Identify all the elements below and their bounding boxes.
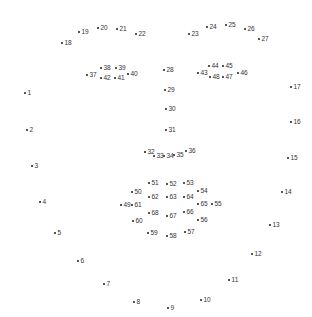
landmark-dot-icon	[251, 253, 253, 255]
landmark-label: 39	[119, 65, 126, 72]
landmark-label: 6	[81, 258, 85, 265]
landmark-dot-icon	[24, 92, 26, 94]
landmark-point: 26	[244, 26, 255, 33]
landmark-label: 12	[255, 251, 262, 258]
landmark-point: 11	[228, 277, 238, 284]
landmark-point: 9	[167, 305, 174, 312]
landmark-dot-icon	[97, 27, 99, 29]
landmark-dot-icon	[197, 203, 199, 205]
landmark-dot-icon	[132, 220, 134, 222]
landmark-dot-icon	[165, 129, 167, 131]
landmark-point: 16	[290, 119, 301, 126]
landmark-label: 43	[201, 70, 208, 77]
landmark-point: 27	[258, 36, 269, 43]
landmark-dot-icon	[166, 183, 168, 185]
landmark-point: 38	[100, 65, 111, 72]
landmark-dot-icon	[208, 65, 210, 67]
landmark-dot-icon	[258, 38, 260, 40]
landmark-dot-icon	[197, 190, 199, 192]
landmark-point: 15	[287, 155, 298, 162]
landmark-dot-icon	[185, 150, 187, 152]
landmark-label: 36	[189, 148, 196, 155]
landmark-dot-icon	[269, 224, 271, 226]
landmark-point: 51	[148, 180, 159, 187]
landmark-point: 39	[115, 65, 126, 72]
landmark-dot-icon	[78, 31, 80, 33]
landmark-dot-icon	[287, 157, 289, 159]
landmark-label: 23	[192, 31, 199, 38]
landmark-point: 44	[208, 63, 219, 70]
landmark-dot-icon	[61, 42, 63, 44]
landmark-point: 17	[290, 84, 301, 91]
landmark-label: 49	[124, 202, 131, 209]
landmark-dot-icon	[131, 191, 133, 193]
landmark-label: 5	[58, 230, 62, 237]
landmark-label: 10	[204, 297, 211, 304]
landmark-dot-icon	[165, 108, 167, 110]
landmark-label: 54	[201, 188, 208, 195]
landmark-dot-icon	[211, 203, 213, 205]
landmark-diagram: 1234567891011121314151617181920212223242…	[0, 0, 312, 317]
landmark-point: 47	[222, 74, 233, 81]
landmark-dot-icon	[116, 28, 118, 30]
landmark-label: 26	[248, 26, 255, 33]
landmark-dot-icon	[163, 155, 165, 157]
landmark-dot-icon	[281, 191, 283, 193]
landmark-dot-icon	[133, 301, 135, 303]
landmark-dot-icon	[103, 283, 105, 285]
landmark-point: 1	[24, 90, 31, 97]
landmark-label: 44	[212, 63, 219, 70]
landmark-dot-icon	[127, 73, 129, 75]
landmark-point: 29	[164, 87, 175, 94]
landmark-label: 50	[135, 189, 142, 196]
landmark-label: 61	[135, 202, 142, 209]
landmark-point: 20	[97, 25, 108, 32]
landmark-point: 24	[206, 24, 217, 31]
landmark-dot-icon	[100, 77, 102, 79]
landmark-dot-icon	[148, 212, 150, 214]
landmark-label: 21	[120, 26, 127, 33]
landmark-point: 6	[77, 258, 84, 265]
landmark-dot-icon	[290, 86, 292, 88]
landmark-label: 48	[213, 74, 220, 81]
landmark-label: 24	[210, 24, 217, 31]
landmark-dot-icon	[77, 260, 79, 262]
landmark-point: 30	[165, 106, 176, 113]
landmark-point: 48	[209, 74, 220, 81]
landmark-label: 22	[139, 31, 146, 38]
landmark-label: 19	[82, 29, 89, 36]
landmark-label: 42	[104, 75, 111, 82]
landmark-point: 45	[222, 63, 233, 70]
landmark-label: 25	[229, 22, 236, 29]
landmark-label: 56	[201, 217, 208, 224]
landmark-point: 4	[39, 199, 46, 206]
landmark-point: 7	[103, 281, 110, 288]
landmark-dot-icon	[167, 307, 169, 309]
landmark-dot-icon	[188, 33, 190, 35]
landmark-dot-icon	[54, 232, 56, 234]
landmark-dot-icon	[100, 67, 102, 69]
landmark-dot-icon	[148, 196, 150, 198]
landmark-label: 67	[170, 213, 177, 220]
landmark-point: 49	[120, 202, 131, 209]
landmark-label: 15	[291, 155, 298, 162]
landmark-dot-icon	[164, 89, 166, 91]
landmark-point: 62	[148, 194, 159, 201]
landmark-label: 8	[137, 299, 141, 306]
landmark-point: 61	[131, 202, 142, 209]
landmark-dot-icon	[135, 33, 137, 35]
landmark-dot-icon	[153, 155, 155, 157]
landmark-dot-icon	[183, 196, 185, 198]
landmark-point: 2	[26, 127, 33, 134]
landmark-dot-icon	[144, 151, 146, 153]
landmark-dot-icon	[166, 196, 168, 198]
landmark-point: 41	[114, 75, 125, 82]
landmark-point: 53	[183, 180, 194, 187]
landmark-point: 18	[61, 40, 72, 47]
landmark-point: 56	[197, 217, 208, 224]
landmark-dot-icon	[26, 129, 28, 131]
landmark-label: 27	[262, 36, 269, 43]
landmark-dot-icon	[197, 72, 199, 74]
landmark-label: 52	[170, 181, 177, 188]
landmark-label: 57	[188, 229, 195, 236]
